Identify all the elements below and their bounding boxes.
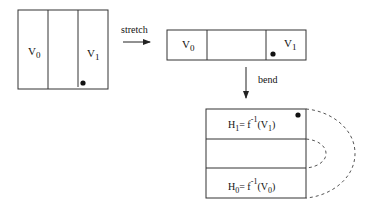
inner-dashed-arc bbox=[306, 139, 326, 168]
label-h1: H1= f-1(V1) bbox=[228, 115, 275, 133]
initial-box: V0 V1 bbox=[18, 10, 108, 89]
stretched-box: V0 V1 bbox=[167, 30, 306, 60]
dot-marker bbox=[270, 51, 275, 56]
bend-label: bend bbox=[258, 74, 277, 85]
stretch-arrow: stretch bbox=[121, 24, 150, 42]
label-v1: V1 bbox=[87, 47, 99, 62]
dot-marker bbox=[80, 80, 85, 85]
outer-dashed-arc bbox=[306, 109, 355, 198]
label-v0: V0 bbox=[182, 38, 195, 53]
bend-arrow: bend bbox=[246, 67, 277, 98]
label-h0: H0= f-1(V0) bbox=[228, 177, 275, 195]
label-v1: V1 bbox=[284, 37, 296, 52]
diagram-canvas: V0 V1 stretch V0 V1 bend H1= f-1(V1) H0=… bbox=[0, 0, 368, 210]
stretch-label: stretch bbox=[121, 24, 148, 35]
bent-box: H1= f-1(V1) H0= f-1(V0) bbox=[206, 109, 355, 198]
dot-marker bbox=[295, 112, 300, 117]
label-v0: V0 bbox=[28, 45, 41, 60]
